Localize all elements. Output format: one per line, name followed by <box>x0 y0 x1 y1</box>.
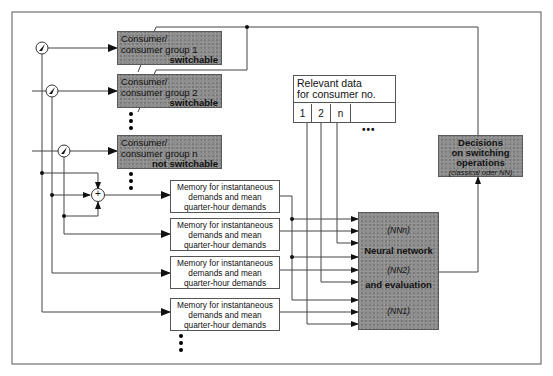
switchable-status: switchable <box>121 55 218 66</box>
relevant-data-table: Relevant data for consumer no. 1 2 n <box>293 75 396 123</box>
evaluation-title: and evaluation <box>359 279 438 290</box>
memory-block-1: Memory for instantaneous demands and mea… <box>170 180 280 213</box>
consumer-cell-empty <box>351 104 395 123</box>
switchable-status: switchable <box>121 98 218 109</box>
memory-line-1: Memory for instantaneous <box>171 182 279 192</box>
not-switchable-status: not switchable <box>121 159 218 170</box>
memory-line-1: Memory for instantaneous <box>171 300 279 310</box>
consumer-group-2-block: Consumer/ consumer group 2 switchable <box>117 74 222 108</box>
memory-line-3: quarter-hour demands <box>171 240 279 250</box>
neural-network-block: (NNn) Neural network (NN2) and evaluatio… <box>358 212 439 330</box>
nn-2-label: (NN2) <box>359 265 438 275</box>
table-continuation-dots: ••• <box>362 124 376 135</box>
consumer-group-n-block: Consumer/ consumer group n not switchabl… <box>117 135 222 169</box>
memory-line-3: quarter-hour demands <box>171 320 279 330</box>
nn-n-label: (NNn) <box>359 225 438 235</box>
switching-control-diagram: + Consumer/ consumer group 1 switchable … <box>0 0 553 376</box>
consumer-cell-1: 1 <box>294 104 312 123</box>
consumer-label: Consumer/ <box>121 138 218 149</box>
ellipsis-dots-icon <box>127 112 135 133</box>
memory-line-1: Memory for instantaneous <box>171 220 279 230</box>
relevant-data-header-line-2: for consumer no. <box>297 89 392 100</box>
memory-line-2: demands and mean <box>171 230 279 240</box>
consumer-label: Consumer/ <box>121 34 218 45</box>
memory-block-3: Memory for instantaneous demands and mea… <box>170 256 280 289</box>
memory-block-2: Memory for instantaneous demands and mea… <box>170 218 280 251</box>
consumer-group-1-block: Consumer/ consumer group 1 switchable <box>117 31 222 65</box>
ellipsis-dots-icon <box>177 334 185 355</box>
summing-junction-symbol: + <box>94 188 102 199</box>
memory-line-2: demands and mean <box>171 268 279 278</box>
memory-block-4: Memory for instantaneous demands and mea… <box>170 298 280 331</box>
decisions-line-3: operations <box>439 158 522 168</box>
neural-network-title: Neural network <box>359 245 438 256</box>
memory-line-3: quarter-hour demands <box>171 202 279 212</box>
consumer-label: Consumer/ <box>121 77 218 88</box>
relevant-data-header: Relevant data for consumer no. <box>294 76 395 103</box>
decisions-method-note: (classical oder NN) <box>439 168 522 178</box>
nn-1-label: (NN1) <box>359 306 438 316</box>
memory-line-2: demands and mean <box>171 192 279 202</box>
memory-line-2: demands and mean <box>171 310 279 320</box>
consumer-cell-n: n <box>331 104 351 123</box>
decisions-block: Decisions on switching operations (class… <box>438 135 523 177</box>
consumer-cell-2: 2 <box>312 104 331 123</box>
meter-icons <box>36 42 105 202</box>
memory-line-1: Memory for instantaneous <box>171 258 279 268</box>
memory-line-3: quarter-hour demands <box>171 278 279 288</box>
ellipsis-dots-icon <box>127 172 135 193</box>
